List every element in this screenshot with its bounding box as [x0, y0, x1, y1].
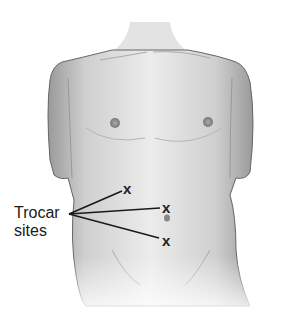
trocar-label: Trocar	[14, 204, 60, 222]
figure: x x x Trocar sites	[0, 0, 291, 320]
torso-illustration	[0, 0, 291, 320]
trocar-mark: x	[162, 233, 170, 248]
trocar-mark: x	[162, 200, 170, 215]
sites-label: sites	[14, 222, 47, 240]
trocar-mark: x	[123, 181, 131, 196]
